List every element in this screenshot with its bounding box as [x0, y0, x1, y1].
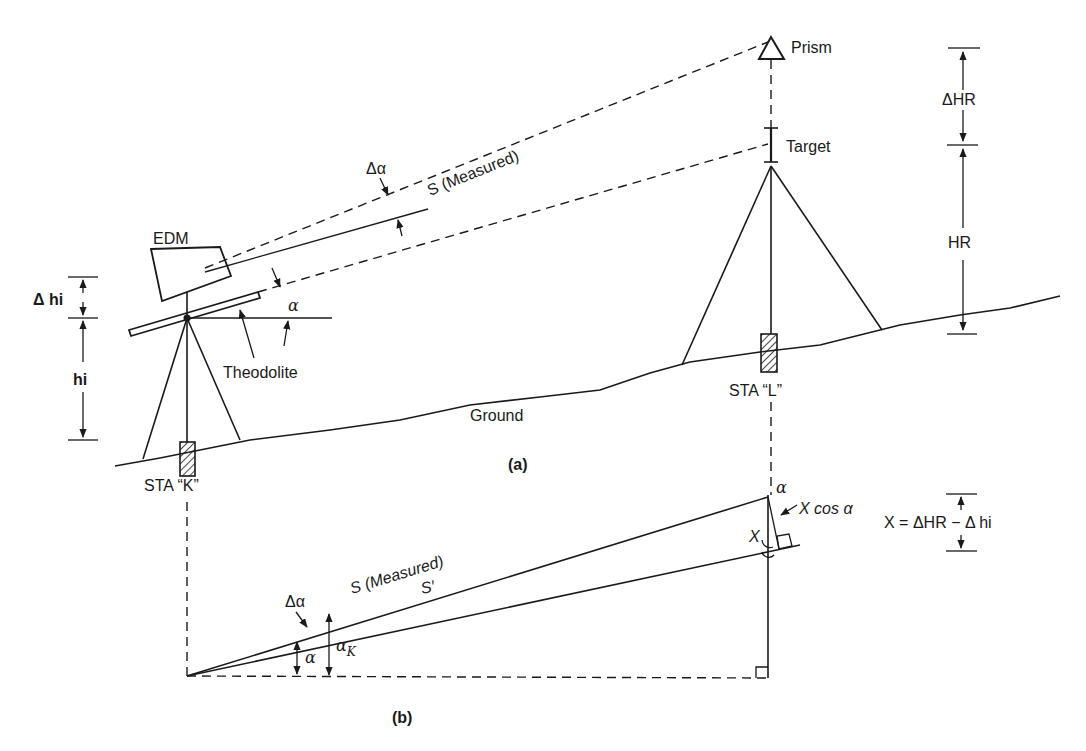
edm-solid-line: [205, 209, 428, 272]
station-k-label: STA “K”: [144, 477, 199, 494]
measured-line-label: S (Measured): [425, 147, 521, 199]
s-measured-line: [187, 497, 768, 676]
target-label: Target: [786, 138, 831, 155]
delta-hi-label: Δ hi: [33, 291, 63, 308]
measured-line-to-prism: [205, 42, 768, 268]
ground-label: Ground: [470, 407, 523, 424]
x-cos-alpha-arrow: [781, 505, 797, 515]
alpha-label-b: α: [305, 648, 316, 667]
theodolite-label: Theodolite: [223, 364, 298, 381]
panel-b: α X cos α X S (Measured) S′ Δα α αK X = …: [187, 478, 992, 726]
hi-label: hi: [73, 371, 87, 388]
edm-label: EDM: [153, 230, 189, 247]
delta-hr-label: ΔHR: [942, 91, 976, 108]
horizontal-base: [187, 676, 768, 678]
target-tripod: [682, 166, 882, 365]
alpha-label: α: [288, 296, 299, 315]
panel-a: Prism Target S (Measured) Δα EDM Δ hi hi…: [33, 37, 1060, 495]
right-angle-bottom: [756, 667, 768, 678]
delta-alpha-arrow-bottom: [398, 220, 402, 236]
station-l-label: STA “L”: [729, 382, 782, 399]
theodolite-line-to-target: [258, 144, 768, 292]
delta-alpha-arrow-top: [380, 178, 388, 195]
alpha-top-label: α: [776, 478, 787, 497]
alpha-arrow: [284, 321, 288, 346]
hi-dimension: [68, 277, 98, 440]
delta-alpha-label: Δα: [366, 160, 386, 177]
x-cos-alpha-label: X cos α: [798, 500, 853, 517]
delta-alpha-arrow-b: [296, 612, 307, 627]
edm-box: [151, 247, 231, 301]
station-k-stake: [180, 442, 195, 476]
s-prime-label: S′: [419, 577, 437, 597]
station-l-stake: [761, 334, 777, 372]
ground-line: [115, 296, 1060, 466]
formula-label: X = ΔHR − Δ hi: [884, 514, 992, 531]
theodolite-tripod: [143, 318, 240, 459]
theodolite-leader: [240, 310, 254, 358]
panel-a-caption: (a): [508, 456, 528, 473]
s-prime-line: [187, 551, 772, 676]
panel-b-caption: (b): [392, 709, 412, 726]
alpha-k-label: αK: [336, 636, 357, 659]
right-angle-square: [777, 534, 792, 549]
hr-label: HR: [948, 234, 971, 251]
edm-slope-correction-diagram: Prism Target S (Measured) Δα EDM Δ hi hi…: [0, 0, 1086, 751]
line-gap-arrow: [272, 268, 280, 287]
delta-alpha-label-b: Δα: [285, 593, 305, 610]
x-label: X: [748, 528, 761, 545]
prism-label: Prism: [791, 39, 832, 56]
prism-icon: [759, 37, 784, 59]
theodolite-telescope: [129, 292, 260, 336]
